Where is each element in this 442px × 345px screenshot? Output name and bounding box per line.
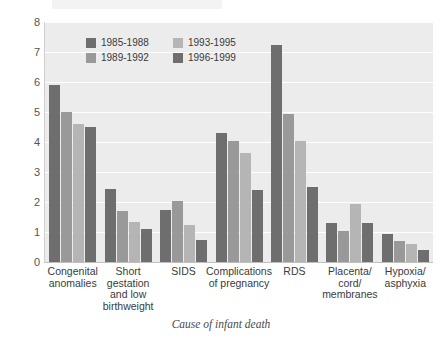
x-axis-line	[45, 262, 433, 263]
bar-5-0[interactable]	[326, 223, 337, 262]
y-tick-label-2: 2	[4, 197, 40, 208]
bar-2-0[interactable]	[160, 210, 171, 263]
infant-death-bar-chart: 876543210 1985-1988 1993-1995 1989-1992 …	[0, 0, 442, 345]
bar-4-3[interactable]	[307, 187, 318, 262]
bar-2-2[interactable]	[184, 225, 195, 263]
legend-label-0: 1985-1988	[101, 38, 149, 48]
bar-0-3[interactable]	[85, 127, 96, 262]
bar-4-0[interactable]	[271, 45, 282, 263]
y-tick-label-1: 1	[4, 227, 40, 238]
y-tick-label-7: 7	[4, 47, 40, 58]
bar-2-1[interactable]	[172, 201, 183, 263]
legend-item-0[interactable]: 1985-1988	[86, 38, 161, 48]
bar-group-5	[326, 22, 373, 262]
x-axis-title: Cause of infant death	[0, 318, 442, 330]
y-tick-label-5: 5	[4, 107, 40, 118]
bar-0-1[interactable]	[61, 112, 72, 262]
bar-6-3[interactable]	[418, 250, 429, 262]
y-axis: 876543210	[0, 0, 40, 345]
legend-item-3[interactable]: 1996-1999	[173, 53, 248, 63]
bar-1-1[interactable]	[117, 211, 128, 262]
bar-1-3[interactable]	[141, 229, 152, 262]
y-tick-label-0: 0	[4, 257, 40, 268]
cropped-header-sliver	[52, 0, 222, 9]
bar-0-0[interactable]	[49, 85, 60, 262]
legend-label-1: 1993-1995	[188, 38, 236, 48]
bar-5-3[interactable]	[362, 223, 373, 262]
legend-label-2: 1989-1992	[101, 53, 149, 63]
bar-4-2[interactable]	[295, 141, 306, 263]
y-tick-label-8: 8	[4, 17, 40, 28]
bar-6-0[interactable]	[382, 234, 393, 263]
y-tick-label-3: 3	[4, 167, 40, 178]
legend: 1985-1988 1993-1995 1989-1992 1996-1999	[86, 35, 256, 65]
x-axis-category-labels: CongenitalanomaliesShortgestationand low…	[45, 266, 433, 318]
bar-0-2[interactable]	[73, 124, 84, 262]
legend-swatch-icon-3	[173, 53, 183, 63]
bar-3-3[interactable]	[252, 190, 263, 262]
bar-3-2[interactable]	[240, 153, 251, 263]
bar-6-2[interactable]	[406, 244, 417, 262]
legend-swatch-icon-2	[86, 53, 96, 63]
legend-swatch-icon-0	[86, 38, 96, 48]
bar-group-4	[271, 22, 318, 262]
bar-5-2[interactable]	[350, 204, 361, 263]
bar-5-1[interactable]	[338, 231, 349, 263]
legend-label-3: 1996-1999	[188, 53, 236, 63]
bar-3-1[interactable]	[228, 141, 239, 263]
legend-swatch-icon-1	[173, 38, 183, 48]
y-tick-label-4: 4	[4, 137, 40, 148]
bar-4-1[interactable]	[283, 114, 294, 263]
bar-group-6	[382, 22, 429, 262]
bar-3-0[interactable]	[216, 133, 227, 262]
y-tick-label-6: 6	[4, 77, 40, 88]
legend-item-2[interactable]: 1989-1992	[86, 53, 161, 63]
bar-2-3[interactable]	[196, 240, 207, 263]
bar-1-2[interactable]	[129, 222, 140, 263]
bar-6-1[interactable]	[394, 241, 405, 262]
x-label-6: Hypoxia/asphyxia	[370, 266, 441, 289]
bar-1-0[interactable]	[105, 189, 116, 263]
legend-item-1[interactable]: 1993-1995	[173, 38, 248, 48]
